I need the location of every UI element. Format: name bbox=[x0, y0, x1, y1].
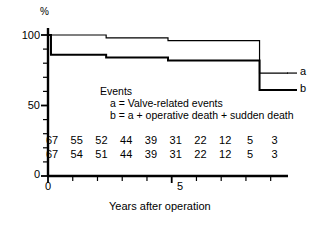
risk-count: 12 bbox=[214, 134, 236, 146]
risk-count: 39 bbox=[140, 134, 162, 146]
y-tick-label-50: 50 bbox=[14, 99, 40, 111]
risk-count: 3 bbox=[264, 148, 286, 160]
risk-count: 39 bbox=[140, 148, 162, 160]
legend-title: Events bbox=[100, 85, 132, 97]
risk-count: 51 bbox=[90, 148, 112, 160]
risk-count: 3 bbox=[264, 134, 286, 146]
curve-label-a: a bbox=[300, 65, 306, 77]
legend-entry-a: a = Valve-related events bbox=[110, 97, 223, 109]
risk-count: 22 bbox=[189, 148, 211, 160]
x-tick-label-5: 5 bbox=[177, 180, 183, 192]
y-tick-label-0: 0 bbox=[14, 168, 40, 180]
risk-count: 44 bbox=[115, 148, 137, 160]
risk-count: 44 bbox=[115, 134, 137, 146]
y-tick-label-100: 100 bbox=[14, 29, 40, 41]
risk-count: 54 bbox=[66, 148, 88, 160]
risk-count: 55 bbox=[66, 134, 88, 146]
risk-count: 31 bbox=[165, 148, 187, 160]
risk-count: 31 bbox=[165, 134, 187, 146]
x-axis-title: Years after operation bbox=[109, 200, 211, 212]
survival-curve-b bbox=[48, 35, 288, 90]
risk-count: 67 bbox=[41, 148, 63, 160]
risk-count: 22 bbox=[189, 134, 211, 146]
risk-count: 67 bbox=[41, 134, 63, 146]
curve-label-b: b bbox=[300, 82, 306, 94]
legend-entry-b: b = a + operative death + sudden death bbox=[110, 109, 294, 121]
x-tick-label-0: 0 bbox=[45, 180, 51, 192]
risk-count: 5 bbox=[239, 148, 261, 160]
y-axis-unit-label: % bbox=[40, 6, 49, 17]
risk-count: 5 bbox=[239, 134, 261, 146]
risk-count: 12 bbox=[214, 148, 236, 160]
risk-count: 52 bbox=[90, 134, 112, 146]
